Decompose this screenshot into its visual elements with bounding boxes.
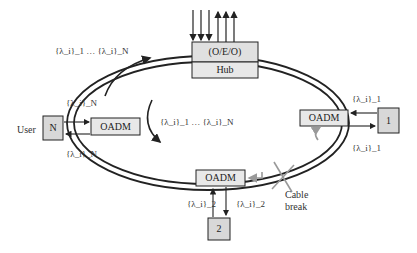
node-2-label: 2	[208, 218, 230, 240]
bottom-oadm-label: OADM	[196, 170, 245, 186]
inner-wavelengths-label: {λ_i}_1 … {λ_i}_N	[160, 118, 234, 127]
hub-label: Hub	[192, 62, 258, 78]
node-1-label: 1	[378, 108, 399, 133]
right-oadm-label: OADM	[300, 110, 348, 126]
cable-break-label-line2: break	[285, 202, 307, 212]
right-bottom-wavelength: {λ_i}_1	[352, 144, 381, 153]
outer-wavelengths-label: {λ_i}_1 … {λ_i}_N	[55, 47, 129, 56]
hub-oeo-label: (O/E/O)	[192, 42, 258, 62]
left-oadm-label: OADM	[91, 118, 140, 135]
hub-arrows	[193, 10, 234, 42]
bottom-left-wavelength: {λ_i}_2	[187, 200, 216, 209]
left-top-wavelength: {λ_i}_N	[66, 99, 97, 108]
user-node-label: N	[43, 116, 63, 140]
bottom-right-wavelength: {λ_i}_2	[236, 200, 265, 209]
loopback-path-bottom	[249, 172, 262, 178]
left-bottom-wavelength: {λ_i}_N	[66, 150, 97, 159]
cable-break-label-line1: Cable	[285, 190, 308, 200]
loopback-path-right	[315, 127, 320, 140]
user-label: User	[17, 125, 36, 135]
right-top-wavelength: {λ_i}_1	[352, 95, 381, 104]
inner-direction-arrow	[148, 100, 161, 142]
